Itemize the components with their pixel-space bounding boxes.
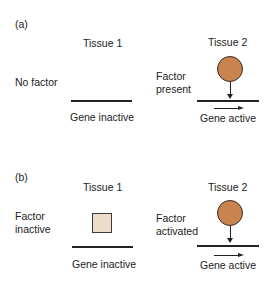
- gene-line: [197, 245, 259, 247]
- panel-b-tissue1-title: Tissue 1: [83, 181, 122, 193]
- panel-b-tissue2-condition-2: activated: [156, 225, 198, 237]
- gene-line: [71, 100, 132, 102]
- arrow-right-icon: [238, 253, 244, 257]
- panel-b-label: (b): [15, 171, 28, 183]
- panel-b-tissue2-condition-1: Factor: [156, 212, 186, 224]
- panel-a-tissue2-condition-2: present: [156, 83, 191, 95]
- transcription-arrow-shaft: [214, 108, 239, 109]
- panel-a-tissue2-gene-state: Gene active: [200, 112, 256, 124]
- active-factor-icon: [217, 56, 243, 82]
- panel-a-label: (a): [15, 18, 28, 30]
- panel-a-tissue1-gene-state: Gene inactive: [70, 111, 134, 123]
- active-factor-icon: [217, 200, 243, 226]
- transcription-arrow-shaft: [214, 255, 239, 256]
- panel-b-tissue1-condition-2: inactive: [15, 223, 51, 235]
- arrow-down-icon: [227, 94, 233, 99]
- panel-a-tissue2-condition-1: Factor: [156, 70, 186, 82]
- arrow-down-icon: [227, 238, 233, 243]
- panel-b-tissue2-title: Tissue 2: [208, 181, 247, 193]
- gene-line: [197, 100, 259, 102]
- gene-line: [72, 246, 133, 248]
- panel-a-tissue1-title: Tissue 1: [83, 37, 122, 49]
- panel-b-tissue1-gene-state: Gene inactive: [72, 258, 136, 270]
- panel-a-tissue1-condition: No factor: [15, 76, 58, 88]
- arrow-right-icon: [238, 106, 244, 110]
- panel-a-tissue2-title: Tissue 2: [208, 36, 247, 48]
- inactive-factor-icon: [92, 213, 112, 233]
- panel-b-tissue1-condition-1: Factor: [15, 210, 45, 222]
- panel-b-tissue2-gene-state: Gene active: [200, 259, 256, 271]
